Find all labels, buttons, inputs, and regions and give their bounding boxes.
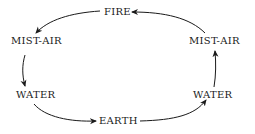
arrow-mist-air-to-water-left: [23, 55, 25, 86]
arrow-water-to-mist-air-right: [214, 51, 216, 87]
arrow-earth-to-water-right: [140, 100, 206, 121]
node-fire: FIRE: [104, 6, 131, 18]
arrow-mist-air-to-fire: [132, 12, 205, 33]
arrow-water-to-earth: [34, 104, 96, 121]
cycle-arrows: [0, 0, 255, 134]
node-mist-air-left: MIST-AIR: [11, 35, 62, 47]
node-water-left: WATER: [16, 89, 55, 101]
arrow-fire-to-mist-air-left: [36, 11, 100, 33]
node-water-right: WATER: [193, 89, 232, 101]
node-mist-air-right: MIST-AIR: [189, 35, 240, 47]
node-earth: EARTH: [99, 115, 138, 127]
element-cycle-diagram: FIRE MIST-AIR WATER EARTH WATER MIST-AIR: [0, 0, 255, 134]
